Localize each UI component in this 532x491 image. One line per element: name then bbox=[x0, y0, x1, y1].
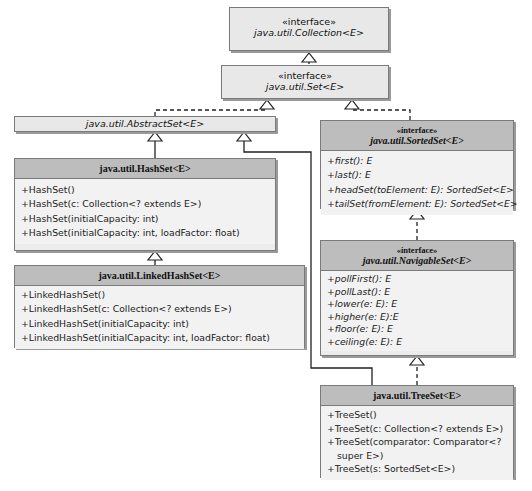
abstractset-to-set-line bbox=[155, 99, 267, 116]
stereotype-label: «interface» bbox=[321, 125, 513, 135]
inheritance-arrowhead-icon bbox=[237, 132, 251, 141]
stereotype-label: «interface» bbox=[222, 70, 388, 81]
method-polllast: +pollLast(): E bbox=[327, 286, 507, 299]
method-last: +last(): E bbox=[327, 168, 507, 182]
constructor-linkedhashset-capacity-loadfactor: +LinkedHashSet(initialCapacity: int, loa… bbox=[21, 331, 298, 345]
navigableset-name: java.util.NavigableSet<E> bbox=[321, 255, 513, 267]
constructor-treeset-comparator: +TreeSet(comparator: Comparator<? bbox=[327, 435, 507, 449]
inheritance-arrowhead-icon bbox=[260, 100, 274, 109]
hashset-name: java.util.HashSet<E> bbox=[15, 159, 275, 178]
sortedset-interface-box: «interface» java.util.SortedSet<E> +firs… bbox=[320, 120, 514, 209]
method-first: +first(): E bbox=[327, 154, 507, 168]
hashset-class-box: java.util.HashSet<E> +HashSet() +HashSet… bbox=[14, 158, 276, 251]
sortedset-to-set-line bbox=[352, 99, 410, 120]
linkedhashset-name: java.util.LinkedHashSet<E> bbox=[15, 266, 304, 285]
constructor-hashset-capacity-loadfactor: +HashSet(initialCapacity: int, loadFacto… bbox=[21, 226, 269, 240]
inheritance-arrowhead-icon bbox=[410, 356, 424, 365]
method-higher: +higher(e: E):E bbox=[327, 311, 507, 324]
constructor-linkedhashset-default: +LinkedHashSet() bbox=[21, 288, 298, 302]
abstractset-name: java.util.AbstractSet<E> bbox=[15, 117, 275, 131]
method-pollfirst: +pollFirst(): E bbox=[327, 273, 507, 286]
inheritance-arrowhead-icon bbox=[302, 53, 316, 62]
constructor-hashset-capacity: +HashSet(initialCapacity: int) bbox=[21, 212, 269, 226]
stereotype-label: «interface» bbox=[230, 16, 388, 27]
inheritance-arrowhead-icon bbox=[345, 100, 359, 109]
method-tailset: +tailSet(fromElement: E): SortedSet<E> bbox=[327, 197, 507, 211]
linkedhashset-class-box: java.util.LinkedHashSet<E> +LinkedHashSe… bbox=[14, 265, 305, 348]
inheritance-arrowhead-icon bbox=[148, 132, 162, 141]
constructor-treeset-default: +TreeSet() bbox=[327, 408, 507, 422]
constructor-hashset-collection: +HashSet(c: Collection<? extends E>) bbox=[21, 197, 269, 211]
constructor-treeset-comparator-cont: super E>) bbox=[327, 449, 507, 463]
constructor-linkedhashset-collection: +LinkedHashSet(c: Collection<? extends E… bbox=[21, 302, 298, 316]
method-lower: +lower(e: E): E bbox=[327, 298, 507, 311]
method-floor: +floor(e: E): E bbox=[327, 323, 507, 336]
method-ceiling: +ceiling(e: E): E bbox=[327, 336, 507, 349]
sortedset-name: java.util.SortedSet<E> bbox=[321, 135, 513, 147]
abstractset-class-box: java.util.AbstractSet<E> bbox=[14, 116, 276, 132]
treeset-name: java.util.TreeSet<E> bbox=[321, 386, 513, 405]
collection-interface-box: «interface» java.util.Collection<E> bbox=[229, 7, 389, 51]
constructor-linkedhashset-capacity: +LinkedHashSet(initialCapacity: int) bbox=[21, 317, 298, 331]
constructor-treeset-sortedset: +TreeSet(s: SortedSet<E>) bbox=[327, 462, 507, 476]
stereotype-label: «interface» bbox=[321, 245, 513, 255]
constructor-treeset-collection: +TreeSet(c: Collection<? extends E>) bbox=[327, 422, 507, 436]
set-name: java.util.Set<E> bbox=[222, 81, 388, 93]
treeset-class-box: java.util.TreeSet<E> +TreeSet() +TreeSet… bbox=[320, 385, 514, 478]
inheritance-arrowhead-icon bbox=[148, 251, 162, 260]
constructor-hashset-default: +HashSet() bbox=[21, 183, 269, 197]
navigableset-interface-box: «interface» java.util.NavigableSet<E> +p… bbox=[320, 240, 514, 356]
collection-name: java.util.Collection<E> bbox=[230, 27, 388, 39]
method-headset: +headSet(toElement: E): SortedSet<E> bbox=[327, 183, 507, 197]
set-interface-box: «interface» java.util.Set<E> bbox=[221, 65, 389, 99]
